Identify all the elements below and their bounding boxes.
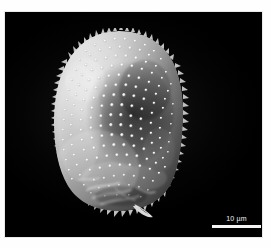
scale-bar-label: 10 µm [212,214,261,223]
scale-bar: 10 µm [212,214,261,234]
pollen-grain-render [49,28,189,218]
screenshot-root: 10 µm [0,0,271,248]
micrograph-plate: 10 µm [5,12,262,237]
specimen-pollen-grain [49,28,189,218]
scale-bar-line [212,225,261,228]
